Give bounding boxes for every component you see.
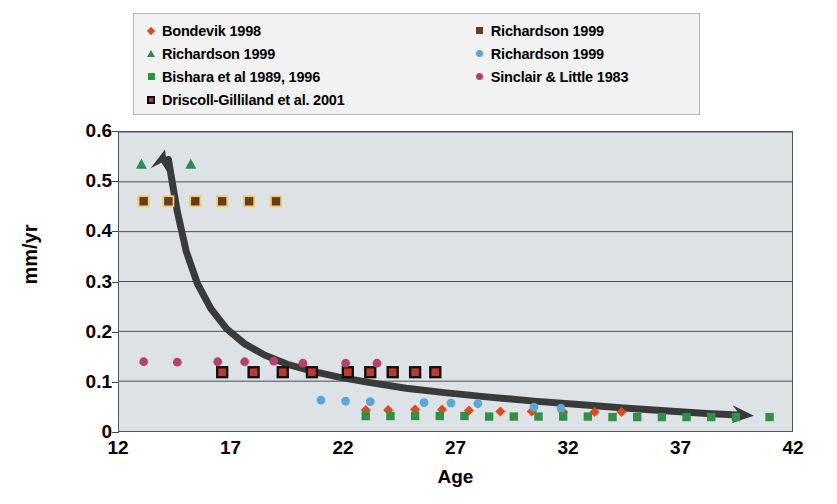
data-point [269,357,278,366]
y-axis-tick-labels: 00.10.20.30.40.50.6 [48,131,112,432]
data-point [341,359,350,368]
data-point [707,413,715,421]
x-tick-label: 42 [763,437,823,459]
legend-item-label: Richardson 1999 [491,46,604,62]
legend-item-label: Richardson 1999 [162,46,275,62]
x-tick-label: 17 [201,437,261,459]
data-point [510,412,518,420]
data-point [173,358,182,367]
legend-item-label: Bondevik 1998 [162,23,261,39]
y-tick-label: 0.1 [56,371,112,393]
data-point [366,397,375,406]
chart-screenshot: Bondevik 1998Richardson 1999Bishara et a… [0,0,837,504]
data-point [164,197,172,205]
data-point [447,399,456,408]
data-point [362,412,370,420]
series-6 [139,357,381,368]
plot-area [118,131,793,432]
data-point [272,197,280,205]
data-point [139,197,147,205]
diamond-marker-icon [140,19,162,42]
series-halos [138,195,282,207]
data-point [317,396,326,405]
data-point [557,404,566,413]
data-point [460,412,468,420]
data-point [386,412,394,420]
x-tick-label: 22 [313,437,373,459]
data-point [608,413,616,421]
data-point [240,357,249,366]
plot-canvas [119,132,792,431]
legend-richardson-1999-triangle: Richardson 1999 [140,42,469,65]
data-point [559,412,567,420]
data-point [191,197,199,205]
data-point [420,398,429,407]
y-tick-label: 0.4 [56,220,112,242]
data-point [411,412,419,420]
legend-bondevik-1998: Bondevik 1998 [140,19,469,42]
circle-marker-icon [469,65,491,88]
square-marker-icon [140,65,162,88]
data-points [136,158,774,421]
legend-bishara: Bishara et al 1989, 1996 [140,65,469,88]
data-point [485,412,493,420]
legend-driscoll-gilliland: Driscoll-Gilliland et al. 2001 [140,88,469,111]
data-point [633,413,641,421]
data-point [213,357,222,366]
data-point [245,197,253,205]
data-point [436,412,444,420]
data-point [530,403,539,412]
data-point [217,367,227,377]
data-point [534,412,542,420]
data-point [765,413,773,421]
data-point [365,367,375,377]
square-ring-marker-icon [140,88,162,111]
legend-item-label: Sinclair & Little 1983 [491,69,628,85]
legend-column-left: Bondevik 1998Richardson 1999Bishara et a… [140,19,469,114]
data-point [732,413,740,421]
gridlines [119,132,792,381]
data-point [299,359,308,368]
legend-item-label: Driscoll-Gilliland et al. 2001 [162,92,345,108]
legend-richardson-1999-square: Richardson 1999 [469,19,693,42]
data-point [278,367,288,377]
y-axis-title: mm/yr [19,205,42,305]
series-2 [362,412,774,421]
trend-arrow-curve [151,147,755,425]
legend-item-label: Richardson 1999 [491,23,604,39]
data-point [584,412,592,420]
x-tick-label: 37 [651,437,711,459]
series-4 [139,197,280,205]
data-point [218,197,226,205]
x-axis-tick-labels: 12172227323742 [118,437,793,465]
legend-sinclair-little: Sinclair & Little 1983 [469,65,693,88]
x-axis-title: Age [118,466,793,488]
data-point [341,397,350,406]
legend-item-label: Bishara et al 1989, 1996 [162,69,320,85]
circle-marker-icon [469,42,491,65]
y-tick-label: 0.2 [56,321,112,343]
data-point [495,407,505,417]
y-tick-label: 0.3 [56,271,112,293]
x-tick-label: 12 [88,437,148,459]
legend-richardson-1999-circle: Richardson 1999 [469,42,693,65]
x-tick-label: 27 [426,437,486,459]
y-tick-label: 0.6 [56,120,112,142]
data-point [474,399,483,408]
y-tick-mark [112,432,119,433]
y-tick-label: 0.5 [56,170,112,192]
square-marker-icon [469,19,491,42]
data-point [410,367,420,377]
data-point [185,158,196,168]
data-point [136,158,147,168]
data-point [373,359,382,368]
data-point [139,357,148,366]
legend-column-right: Richardson 1999Richardson 1999Sinclair &… [469,19,693,114]
data-point [249,367,259,377]
data-point [343,367,353,377]
x-tick-label: 32 [538,437,598,459]
data-point [430,367,440,377]
data-point [658,413,666,421]
data-point [682,413,690,421]
data-point [307,367,317,377]
